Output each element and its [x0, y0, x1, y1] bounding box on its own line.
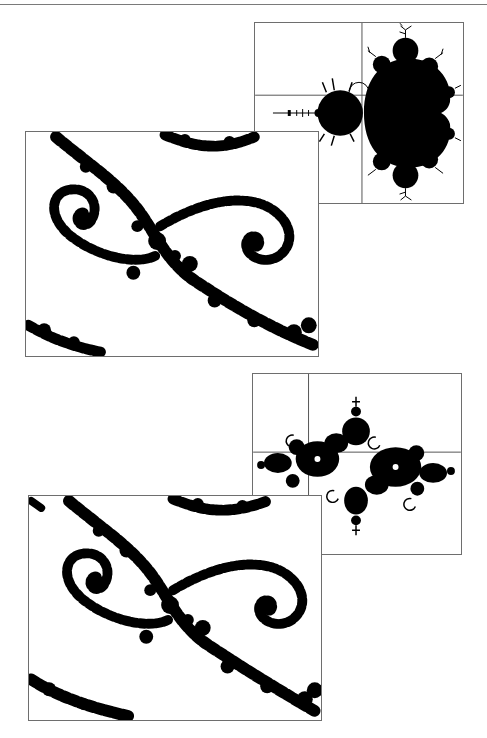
fractal-spiral-image-1 [26, 132, 318, 356]
header-rule [0, 4, 487, 5]
fractal-zoom-figure-1 [25, 131, 319, 357]
fractal-spiral-image-2 [29, 496, 321, 720]
fractal-zoom-figure-2 [28, 495, 322, 721]
